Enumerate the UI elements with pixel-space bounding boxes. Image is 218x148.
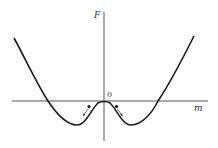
left-arrow-icon [83,109,88,117]
double-well-plot [0,0,218,148]
diagram-canvas: F 0 m [0,0,218,148]
origin-label: 0 [107,91,112,99]
left-ball-icon [87,105,90,108]
right-ball-icon [115,105,118,108]
y-axis-label: F [94,11,100,20]
x-axis-label: m [194,104,203,113]
